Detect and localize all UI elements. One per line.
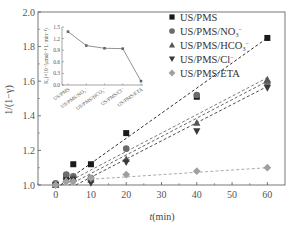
legend-label: US/PMS/Cl− — [180, 54, 234, 65]
x-tick-label: 20 — [121, 189, 131, 200]
y-tick-label: 1.8 — [23, 41, 36, 52]
legend-marker — [169, 70, 176, 77]
legend-marker — [169, 42, 175, 48]
inset-y-axis-label: K₁(×10⁻²μmol⁻¹·L·min⁻¹) — [43, 28, 50, 84]
data-point — [264, 35, 270, 41]
inset-point — [85, 44, 88, 47]
legend-marker — [169, 14, 174, 19]
inset-y-tick-label: 0.3 — [53, 70, 60, 76]
data-point — [264, 76, 271, 83]
data-point — [123, 160, 130, 167]
inset-y-tick-label: 0.9 — [53, 47, 60, 53]
y-tick-label: 2.0 — [23, 7, 36, 18]
data-point — [193, 119, 200, 126]
x-tick-label: 40 — [192, 189, 202, 200]
y-axis-label: 1/(1−γ) — [3, 85, 15, 115]
legend-label: US/PMS/HCO3− — [180, 40, 249, 52]
inset-y-tick-label: 1.5 — [53, 24, 60, 30]
chart-canvas: 1.01.21.41.61.82.00102030405060 US/PMSUS… — [0, 0, 290, 229]
fit-line — [91, 168, 267, 180]
chart: 1.01.21.41.61.82.00102030405060 US/PMSUS… — [0, 0, 290, 229]
data-point — [88, 161, 94, 167]
y-tick-label: 1.4 — [23, 110, 36, 121]
data-point — [263, 164, 271, 172]
legend-label: US/PMS — [180, 12, 218, 23]
y-tick-label: 1.2 — [23, 145, 36, 156]
legend-marker — [169, 56, 175, 62]
x-tick-label: 30 — [157, 189, 167, 200]
inset-point — [103, 47, 106, 50]
inset-y-tick-label: 1.2 — [53, 36, 60, 42]
legend-label: US/PMS/ETA — [180, 68, 240, 79]
data-point — [264, 85, 271, 92]
x-axis-label: t(min) — [150, 211, 175, 223]
data-point — [193, 167, 201, 175]
y-tick-label: 1.6 — [23, 76, 36, 87]
inset-point — [121, 47, 124, 50]
y-tick-label: 1.0 — [23, 180, 36, 191]
data-point — [123, 130, 129, 136]
x-tick-label: 10 — [86, 189, 96, 200]
legend-label: US/PMS/NO3− — [180, 26, 242, 38]
inset-line — [68, 32, 141, 81]
inset-point — [67, 30, 70, 33]
x-tick-label: 0 — [53, 189, 58, 200]
x-tick-label: 50 — [227, 189, 237, 200]
legend-marker — [169, 28, 175, 34]
data-point — [70, 161, 76, 167]
data-point — [193, 92, 200, 99]
data-point — [193, 128, 200, 135]
legend: US/PMSUS/PMS/NO3−US/PMS/HCO3−US/PMS/Cl−U… — [169, 12, 250, 79]
inset-chart: 0.00.30.60.91.21.5US/PMSUS/PMS/NO₃⁻US/PM… — [43, 24, 144, 111]
inset-y-tick-label: 0.0 — [53, 82, 60, 88]
inset-y-tick-label: 0.6 — [53, 59, 60, 65]
inset-point — [140, 80, 143, 83]
data-point — [123, 145, 130, 152]
x-tick-label: 60 — [262, 189, 272, 200]
